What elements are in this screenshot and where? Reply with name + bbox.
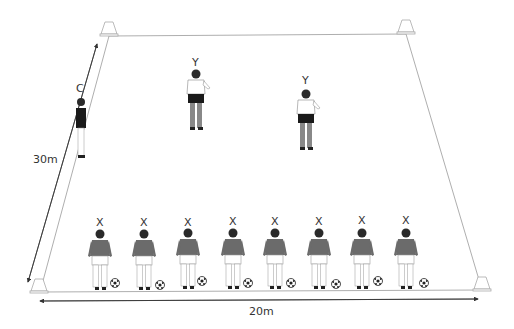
- defender-player: Y: [187, 56, 210, 130]
- defender-player: Y: [297, 74, 320, 150]
- attacker-label: X: [229, 215, 237, 228]
- ball-icon: [198, 277, 207, 286]
- ball-icon: [332, 280, 341, 289]
- ball-icon: [287, 279, 296, 288]
- coach-label: C: [76, 82, 84, 95]
- attacker-player: X: [88, 216, 120, 290]
- attacker-label: X: [140, 216, 148, 229]
- ball-icon: [111, 279, 120, 288]
- attacker-label: X: [184, 216, 192, 229]
- defender-label: Y: [191, 56, 199, 69]
- length-label: 30m: [33, 153, 58, 166]
- ball-icon: [244, 279, 253, 288]
- ball-icon: [420, 279, 429, 288]
- width-dimension-arrow: [40, 299, 478, 301]
- defender-label: Y: [301, 74, 309, 87]
- coach-figure-icon: [76, 98, 86, 158]
- defender-figure-icon: [297, 90, 320, 151]
- ball-icon: [156, 281, 165, 290]
- attacker-player: X: [221, 215, 253, 289]
- attacker-player: X: [132, 216, 165, 290]
- attacker-label: X: [96, 216, 104, 229]
- attacker-label: X: [315, 215, 323, 228]
- coach-player: C: [76, 82, 86, 158]
- width-label: 20m: [249, 305, 274, 318]
- attacker-label: X: [402, 214, 410, 227]
- ball-icon: [374, 277, 383, 286]
- cone-icon: [397, 20, 415, 34]
- attacker-player: X: [350, 214, 383, 289]
- attacker-player: X: [176, 216, 207, 289]
- drill-diagram: 30m 20m C Y Y X X X X: [0, 0, 514, 329]
- defender-figure-icon: [187, 70, 210, 131]
- attacker-label: X: [358, 214, 366, 227]
- cone-icon: [30, 279, 48, 293]
- cone-icon: [473, 277, 491, 291]
- attacker-player: X: [263, 215, 296, 289]
- attacker-player: X: [394, 214, 429, 289]
- cone-icon: [100, 22, 118, 36]
- attacker-player: X: [307, 215, 341, 289]
- attacker-label: X: [271, 215, 279, 228]
